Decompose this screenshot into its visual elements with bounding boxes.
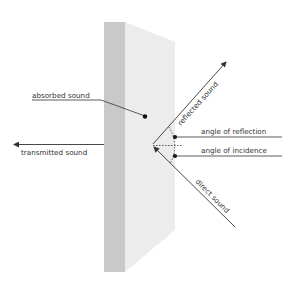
reflected-sound-label: reflected sound bbox=[176, 80, 220, 128]
transmitted-sound-label: transmitted sound bbox=[21, 148, 87, 157]
panel-side-face bbox=[104, 22, 125, 272]
transmitted-sound-arrow: transmitted sound bbox=[14, 145, 104, 158]
direct-sound-label: direct sound bbox=[194, 177, 232, 215]
absorbed-point-marker bbox=[143, 114, 147, 118]
angle-of-reflection-label: angle of reflection bbox=[201, 127, 266, 136]
wall-panel bbox=[104, 22, 175, 272]
absorbed-sound-label: absorbed sound bbox=[32, 91, 90, 100]
panel-front-face bbox=[125, 22, 175, 272]
angle-of-incidence-label: angle of incidence bbox=[201, 146, 267, 155]
sound-diagram: absorbed sound transmitted sound reflect… bbox=[0, 0, 296, 282]
